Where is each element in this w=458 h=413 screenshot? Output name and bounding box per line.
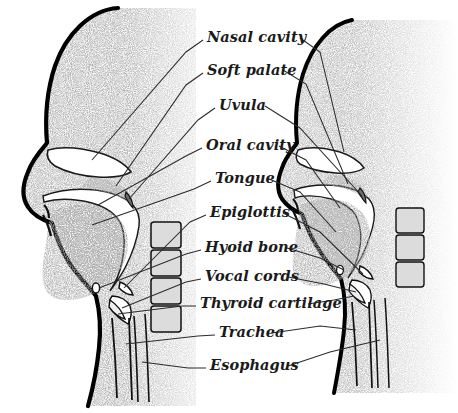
label-uvula: Uvula	[219, 96, 266, 113]
label-epiglottis: Epiglottis	[209, 203, 290, 220]
label-thyroid-cartilage: Thyroid cartilage	[200, 294, 342, 311]
hyoid-bone-region	[92, 283, 99, 293]
label-hyoid-bone: Hyoid bone	[204, 238, 298, 255]
label-oral-cavity: Oral cavity	[206, 136, 296, 153]
anatomy-illustration: Nasal cavity Soft palate Uvula Oral cavi…	[0, 0, 458, 413]
label-esophagus: Esophagus	[209, 356, 299, 373]
label-vocal-cords: Vocal cords	[205, 267, 299, 284]
right-head	[270, 0, 458, 413]
label-tongue: Tongue	[215, 169, 275, 186]
cervical-vertebrae-right	[396, 208, 424, 287]
label-soft-palate: Soft palate	[207, 61, 297, 78]
label-trachea: Trachea	[219, 323, 284, 340]
left-head	[0, 0, 230, 413]
diagram-canvas: Nasal cavity Soft palate Uvula Oral cavi…	[0, 0, 458, 413]
label-nasal-cavity: Nasal cavity	[206, 28, 308, 45]
